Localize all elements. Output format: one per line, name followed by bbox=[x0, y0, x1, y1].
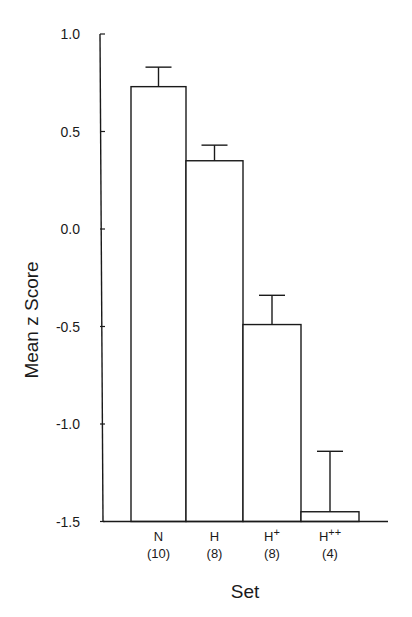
y-tick-label: 1.0 bbox=[61, 26, 81, 42]
x-axis: N(10)H(8)H+(8)H++(4) bbox=[103, 522, 388, 561]
bar-h bbox=[186, 145, 243, 521]
bar-hplusplus bbox=[301, 451, 359, 521]
x-tick-sample-size: (10) bbox=[147, 546, 170, 561]
y-tick-label: 0.0 bbox=[61, 221, 81, 237]
y-tick-label: -1.5 bbox=[56, 514, 80, 530]
x-tick-label: H bbox=[210, 529, 219, 544]
y-axis-title: Mean z Score bbox=[21, 261, 42, 378]
x-axis-title: Set bbox=[231, 581, 260, 602]
y-tick-label: -0.5 bbox=[56, 319, 80, 335]
y-tick-label: -1.0 bbox=[56, 416, 80, 432]
bar-n bbox=[131, 67, 186, 521]
x-tick-sample-size: (8) bbox=[207, 546, 223, 561]
bars bbox=[131, 67, 359, 521]
x-tick-label: N bbox=[154, 529, 163, 544]
y-tick-label: 0.5 bbox=[61, 124, 81, 140]
bar-hplus bbox=[243, 295, 301, 521]
x-tick-sample-size: (4) bbox=[322, 546, 338, 561]
x-tick-label: H+ bbox=[264, 526, 280, 544]
bar-chart: 1.00.50.0-0.5-1.0-1.5 N(10)H(8)H+(8)H++(… bbox=[0, 0, 412, 617]
x-tick-label: H++ bbox=[319, 526, 341, 544]
y-axis: 1.00.50.0-0.5-1.0-1.5 bbox=[56, 26, 105, 530]
x-tick-sample-size: (8) bbox=[264, 546, 280, 561]
